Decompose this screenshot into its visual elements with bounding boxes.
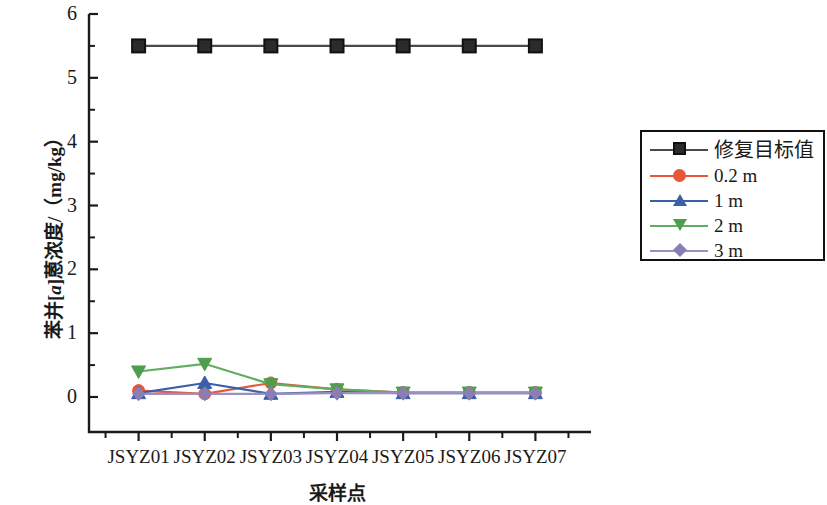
legend-marker-triangle-up-icon [671, 191, 689, 209]
legend-marker-square-icon [671, 140, 689, 158]
legend: 修复目标值0.2 m1 m2 m3 m [640, 130, 825, 261]
y-tick-label: 0 [51, 386, 77, 406]
data-point-marker [132, 366, 146, 379]
data-point-marker [198, 39, 211, 52]
legend-label: 3 m [708, 241, 743, 261]
x-tick-label-jsyz07: JSYZ07 [492, 447, 578, 467]
legend-label: 0.2 m [708, 166, 757, 186]
y-tick-label: 4 [51, 131, 77, 151]
legend-marker-circle-icon [671, 166, 689, 184]
legend-item-2[interactable]: 0.2 m [650, 164, 757, 188]
data-point-marker [397, 39, 410, 52]
legend-label: 2 m [708, 216, 743, 236]
legend-item-4[interactable]: 2 m [650, 214, 743, 238]
legend-item-1[interactable]: 修复目标值 [650, 138, 814, 162]
y-tick-label: 2 [51, 258, 77, 278]
data-point-marker [529, 39, 542, 52]
legend-label: 修复目标值 [708, 140, 814, 160]
legend-swatch [650, 191, 708, 211]
legend-marker-shape [673, 169, 686, 182]
data-point-marker [264, 39, 277, 52]
series-1 [132, 39, 542, 52]
axes-layer [89, 14, 591, 441]
data-point-marker [463, 39, 476, 52]
series-layer [132, 39, 543, 400]
data-point-marker [132, 39, 145, 52]
legend-label: 1 m [708, 191, 743, 211]
legend-swatch [650, 216, 708, 236]
y-tick-label: 3 [51, 195, 77, 215]
series-5 [133, 386, 542, 401]
legend-item-3[interactable]: 1 m [650, 189, 743, 213]
legend-item-5[interactable]: 3 m [650, 239, 743, 263]
legend-marker-shape [673, 142, 686, 155]
legend-marker-triangle-down-icon [671, 216, 689, 234]
legend-marker-shape [673, 219, 687, 231]
legend-swatch [650, 166, 708, 186]
legend-swatch [650, 140, 708, 160]
y-tick-label: 5 [51, 67, 77, 87]
data-point-marker [331, 39, 344, 52]
legend-marker-shape [673, 194, 687, 206]
y-tick-label: 6 [51, 3, 77, 23]
chart-figure: 苯并[a]蒽浓度/（mg/kg） 采样点 0123456 JSYZ01JSYZ0… [0, 0, 827, 505]
legend-marker-shape [673, 243, 687, 257]
legend-swatch [650, 241, 708, 261]
legend-marker-diamond-icon [671, 241, 689, 259]
y-tick-label: 1 [51, 322, 77, 342]
